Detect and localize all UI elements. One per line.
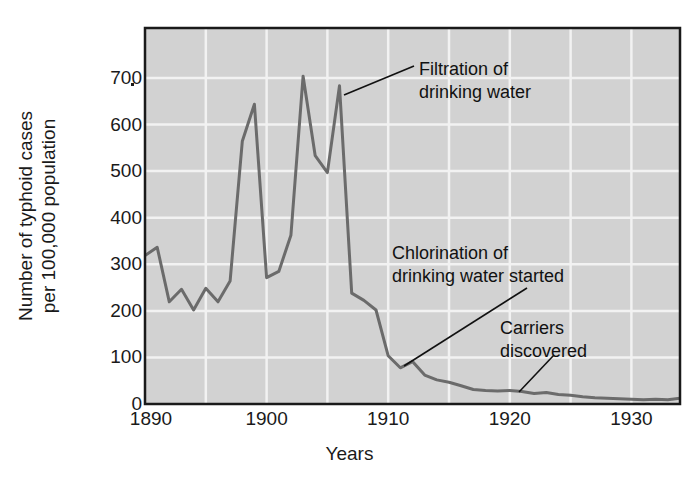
plot-area	[0, 0, 699, 486]
x-axis-title: Years	[0, 443, 699, 465]
annotation-carriers-line2: discovered	[500, 340, 587, 363]
annotation-carriers-line1: Carriers	[500, 317, 587, 340]
annotation-chlorination-line1: Chlorination of	[392, 242, 564, 265]
annotation-filtration-line2: drinking water	[419, 81, 531, 104]
annotation-chlorination: Chlorination of drinking water started	[392, 242, 564, 287]
x-tick-1900: 1900	[245, 408, 287, 430]
x-tick-1890: 1890	[130, 408, 172, 430]
annotation-filtration-line1: Filtration of	[419, 58, 531, 81]
x-tick-1920: 1920	[489, 408, 531, 430]
x-tick-1910: 1910	[367, 408, 409, 430]
plot-background	[145, 28, 680, 404]
annotation-carriers: Carriers discovered	[500, 317, 587, 362]
typhoid-cases-line-chart: Number of typhoid cases per 100,000 popu…	[0, 0, 699, 486]
x-tick-1930: 1930	[610, 408, 652, 430]
annotation-filtration: Filtration of drinking water	[419, 58, 531, 103]
annotation-chlorination-line2: drinking water started	[392, 265, 564, 288]
